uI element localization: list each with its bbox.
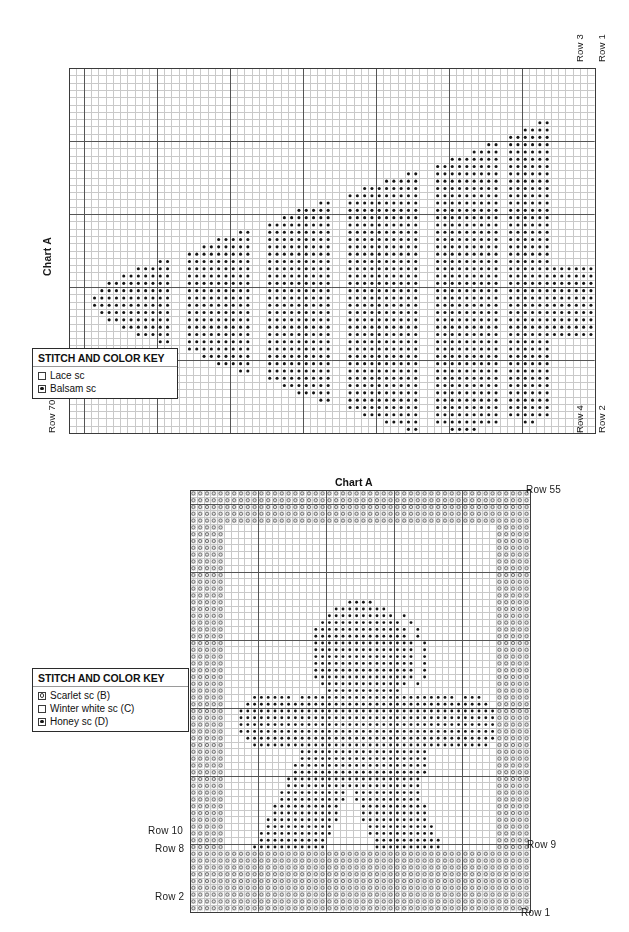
- key-row-lace: Lace sc: [38, 369, 172, 382]
- chart-one-row-4-label: Row 4: [574, 405, 585, 433]
- chart-two-row-10-label: Row 10: [148, 825, 183, 836]
- key-row-scarlet: Scarlet sc (B): [38, 689, 183, 702]
- chart-two-key-title: STITCH AND COLOR KEY: [33, 669, 188, 687]
- chart-two-row-9-label: Row 9: [527, 839, 556, 850]
- key-label-balsam: Balsam sc: [50, 383, 96, 394]
- scarlet-sc-swatch-icon: [38, 692, 46, 700]
- chart-one-key-rows: Lace sc Balsam sc: [33, 367, 177, 398]
- chart-two-row-55-label: Row 55: [526, 484, 561, 495]
- key-label-honey: Honey sc (D): [50, 716, 108, 727]
- chart-two-title: Chart A: [335, 476, 373, 488]
- chart-one-grid: [0, 0, 629, 470]
- chart-two-row-8-label: Row 8: [155, 843, 184, 854]
- winter-white-sc-swatch-icon: [38, 705, 46, 713]
- key-label-lace: Lace sc: [50, 370, 84, 381]
- chart-one-row-1-label: Row 1: [596, 34, 607, 62]
- key-label-scarlet: Scarlet sc (B): [50, 690, 110, 701]
- chart-two-container: Chart A Row 55 Row 10 Row 8 Row 9 Row 2 …: [0, 470, 629, 932]
- balsam-sc-swatch-icon: [38, 385, 46, 393]
- lace-sc-swatch-icon: [38, 372, 46, 380]
- chart-one-side-title: Chart A: [41, 237, 53, 276]
- key-row-honey: Honey sc (D): [38, 715, 183, 728]
- chart-one-stitch-color-key: STITCH AND COLOR KEY Lace sc Balsam sc: [32, 348, 178, 399]
- chart-one-row-2-label: Row 2: [596, 405, 607, 433]
- key-row-winter-white: Winter white sc (C): [38, 702, 183, 715]
- key-label-winter-white: Winter white sc (C): [50, 703, 134, 714]
- key-row-balsam: Balsam sc: [38, 382, 172, 395]
- chart-two-stitch-color-key: STITCH AND COLOR KEY Scarlet sc (B) Wint…: [32, 668, 189, 732]
- chart-one-row-3-label: Row 3: [574, 34, 585, 62]
- chart-two-key-rows: Scarlet sc (B) Winter white sc (C) Honey…: [33, 687, 188, 731]
- chart-one-row-70-label: Row 70: [46, 400, 57, 433]
- honey-sc-swatch-icon: [38, 718, 46, 726]
- chart-one-container: Row 3 Row 1 Row 4 Row 2 Row 70 Chart A S…: [0, 0, 629, 470]
- chart-two-row-1-label: Row 1: [521, 907, 550, 918]
- chart-two-row-2-label: Row 2: [155, 891, 184, 902]
- chart-one-key-title: STITCH AND COLOR KEY: [33, 349, 177, 367]
